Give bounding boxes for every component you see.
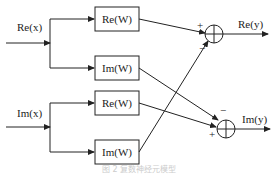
output-label-im-y: Im(y) <box>242 113 267 126</box>
summer-top <box>205 25 223 43</box>
output-label-re-y: Re(y) <box>238 18 263 31</box>
sign-top-plus: + <box>197 19 203 31</box>
figure-caption: 图 2 复数神经元模型 <box>102 164 176 174</box>
block-re-w-2: Re(W) <box>95 91 139 115</box>
line-im-w-1-to-sum-bottom <box>139 68 218 120</box>
line-re-w-2-to-sum-bottom <box>139 103 216 127</box>
block-re-w-1: Re(W) <box>95 7 139 31</box>
block-label: Im(W) <box>102 146 132 159</box>
complex-multiplication-diagram: Re(x) Im(x) Re(W) Im(W) Re(W) Im(W) + − … <box>0 0 278 175</box>
sign-top-minus: − <box>199 42 205 54</box>
line-re-w-1-to-sum-top <box>139 19 205 33</box>
block-label: Re(W) <box>102 13 132 26</box>
block-im-w-2: Im(W) <box>95 140 139 164</box>
sign-bottom-plus: + <box>209 128 215 140</box>
block-label: Im(W) <box>102 62 132 75</box>
block-im-w-1: Im(W) <box>95 56 139 80</box>
block-label: Re(W) <box>102 97 132 110</box>
line-im-w-2-to-sum-top <box>139 41 208 152</box>
input-label-re-x: Re(x) <box>17 21 42 34</box>
summer-bottom <box>217 120 235 138</box>
sign-bottom-minus: − <box>220 104 226 116</box>
input-label-im-x: Im(x) <box>17 107 42 120</box>
